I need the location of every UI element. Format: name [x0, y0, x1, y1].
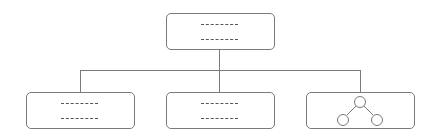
placeholder-line-2: [201, 39, 238, 40]
placeholder-line-1: [201, 103, 238, 104]
connector-child-3: [360, 70, 361, 92]
connector-horizontal: [80, 70, 361, 71]
connector-root-down: [219, 50, 220, 70]
placeholder-line-2: [61, 118, 98, 119]
connector-child-1: [80, 70, 81, 92]
tree-hierarchy-icon: [306, 92, 415, 129]
child-node-2[interactable]: [166, 92, 275, 129]
child-node-3[interactable]: [306, 92, 415, 129]
placeholder-line-2: [201, 118, 238, 119]
placeholder-line-1: [201, 24, 238, 25]
root-node[interactable]: [166, 13, 275, 50]
org-chart-diagram: [0, 0, 435, 140]
child-node-1[interactable]: [26, 92, 135, 129]
placeholder-line-1: [61, 103, 98, 104]
connector-child-2: [219, 70, 220, 92]
